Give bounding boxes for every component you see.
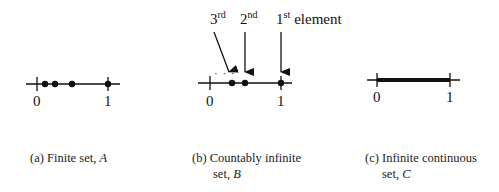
ellipsis: · · · (214, 67, 236, 79)
caption-a-text: Finite set, (47, 151, 96, 165)
panel-c-continuous-set: 0 1 (367, 73, 460, 105)
point (52, 81, 58, 87)
label-zero: 0 (33, 93, 41, 109)
label-one: 1 (104, 93, 112, 109)
label-zero: 0 (206, 93, 214, 109)
point (42, 81, 48, 87)
panel-b-countable-set: · · · 0 1 3rd 2nd 1stelement (198, 9, 342, 109)
label-zero: 0 (373, 89, 381, 105)
annotation-third: 3rd (210, 9, 226, 27)
caption-a-var: A (99, 151, 107, 165)
point (69, 81, 75, 87)
caption-b: (b) Countably infinite set, B (192, 150, 301, 182)
arrow-third (214, 32, 229, 72)
caption-c-line1: (c) Infinite continuous (365, 150, 477, 166)
point-third (229, 80, 235, 86)
annotation-second: 2nd (240, 9, 258, 27)
point-first (278, 80, 284, 86)
caption-b-line1: (b) Countably infinite (192, 150, 301, 166)
caption-c: (c) Infinite continuous set, C (365, 150, 477, 182)
point (105, 81, 111, 87)
caption-b-line2: set, B (192, 166, 301, 182)
label-one: 1 (446, 89, 454, 105)
caption-a: (a) Finite set, A (30, 150, 107, 166)
panel-a-finite-set: 0 1 (26, 77, 120, 109)
annotation-first: 1stelement (276, 9, 342, 27)
label-one: 1 (277, 93, 285, 109)
caption-c-line2: set, C (365, 166, 477, 182)
caption-a-prefix: (a) (30, 151, 44, 165)
point-second (242, 80, 248, 86)
